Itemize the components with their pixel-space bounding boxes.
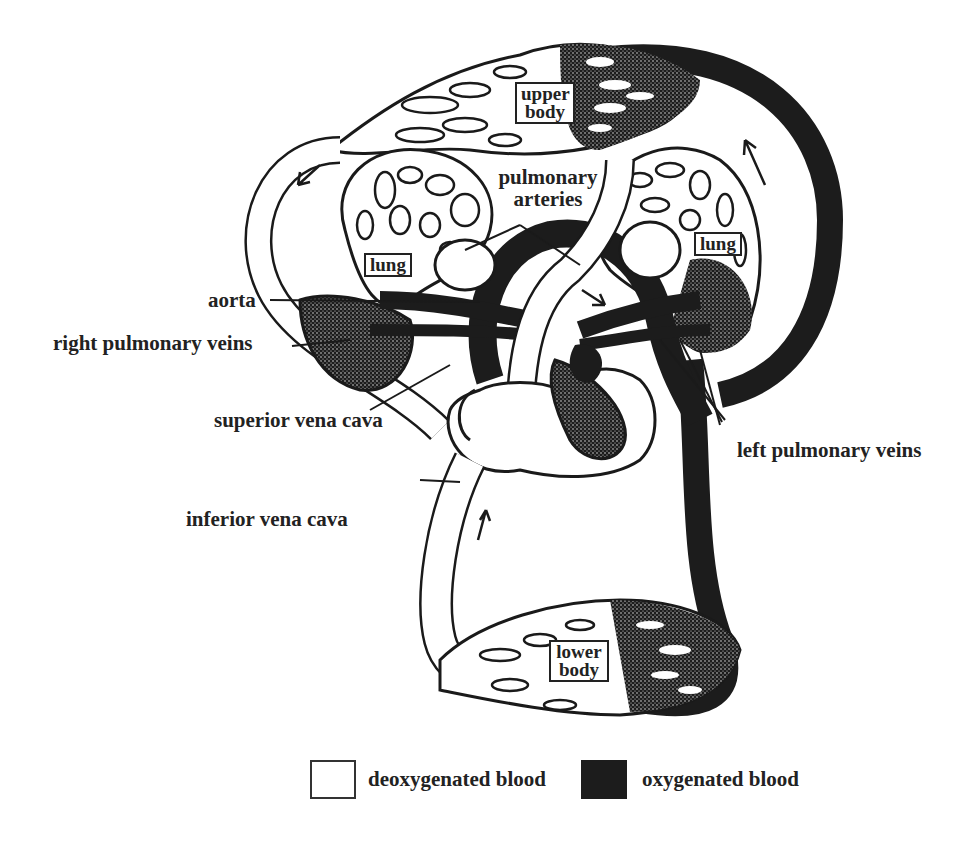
upper-body-label: upper body (515, 82, 575, 124)
flow-arrow-icon (582, 290, 605, 305)
pulmonary-arteries-line1: pulmonary (493, 166, 603, 188)
legend-label-deoxygenated: deoxygenated blood (368, 768, 546, 790)
inferior-vena-cava-label: inferior vena cava (186, 508, 348, 530)
circulation-illustration (0, 0, 980, 851)
pulmonary-arteries-label: pulmonary arteries (493, 166, 603, 210)
left-lung-label: lung (694, 232, 742, 256)
flow-arrow-icon (744, 140, 765, 185)
aorta-label: aorta (208, 289, 256, 311)
legend-label-oxygenated: oxygenated blood (642, 768, 799, 790)
circulation-diagram: upper body lower body lung lung pulmonar… (0, 0, 980, 851)
right-pulmonary-veins-label: right pulmonary veins (53, 332, 253, 354)
lower-body-label: lower body (549, 640, 609, 682)
pulmonary-arteries-line2: arteries (493, 188, 603, 210)
superior-vena-cava-label: superior vena cava (214, 409, 383, 431)
flow-arrow-icon (478, 510, 490, 540)
legend-swatch-oxygenated (581, 760, 627, 799)
right-lung-label: lung (364, 253, 412, 277)
left-pulmonary-veins-label: left pulmonary veins (737, 439, 921, 461)
legend-swatch-deoxygenated (310, 760, 356, 799)
lower-body-label-line2: body (555, 661, 603, 679)
upper-body-label-line2: body (521, 103, 569, 121)
